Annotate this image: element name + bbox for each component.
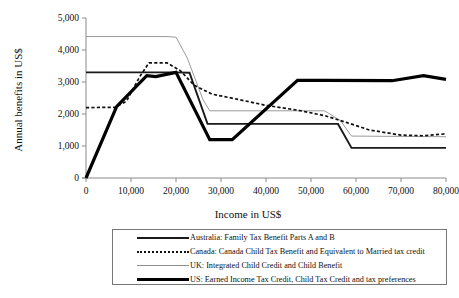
y-tick-label: 4,000: [58, 45, 80, 55]
x-tick-label: 0: [84, 186, 89, 196]
x-tick-label: 50,000: [298, 186, 324, 196]
x-tick-label: 80,000: [433, 186, 459, 196]
legend-swatch-canada: [113, 245, 190, 258]
line-chart: 01,0002,0003,0004,0005,000 010,00020,000…: [0, 0, 459, 228]
legend-swatch-us: [113, 273, 190, 286]
legend-item-australia[interactable]: Australia: Family Tax Benefit Parts A an…: [113, 231, 446, 244]
legend-swatch-australia: [113, 231, 190, 244]
y-axis-ticks: 01,0002,0003,0004,0005,000: [58, 13, 86, 183]
x-tick-label: 20,000: [163, 186, 189, 196]
x-axis-title: Income in US$: [215, 208, 282, 220]
legend-label-australia: Australia: Family Tax Benefit Parts A an…: [190, 233, 335, 242]
legend-item-uk[interactable]: UK: Integrated Child Credit and Child Be…: [113, 259, 446, 272]
legend-line-icon: [137, 278, 189, 281]
y-axis-title: Annual benefits in US$: [12, 48, 24, 152]
x-axis-title-wrap: Income in US$: [0, 200, 459, 226]
legend-line-icon: [137, 265, 189, 266]
legend-line-icon: [137, 251, 189, 253]
chart-legend: Australia: Family Tax Benefit Parts A an…: [112, 229, 447, 285]
series-line-us: [86, 72, 446, 178]
y-tick-label: 3,000: [58, 77, 80, 87]
legend-swatch-uk: [113, 259, 190, 272]
y-tick-label: 0: [74, 173, 79, 183]
chart-figure: 01,0002,0003,0004,0005,000 010,00020,000…: [0, 0, 459, 298]
legend-label-uk: UK: Integrated Child Credit and Child Be…: [190, 261, 342, 270]
series-line-uk: [86, 37, 446, 137]
legend-label-canada: Canada: Canada Child Tax Benefit and Equ…: [190, 247, 425, 256]
y-tick-label: 1,000: [58, 141, 80, 151]
x-tick-label: 40,000: [253, 186, 279, 196]
y-tick-label: 5,000: [58, 13, 80, 23]
x-tick-label: 70,000: [388, 186, 414, 196]
legend-label-us: US: Earned Income Tax Credit, Child Tax …: [190, 275, 416, 284]
y-tick-label: 2,000: [58, 109, 80, 119]
legend-item-us[interactable]: US: Earned Income Tax Credit, Child Tax …: [113, 273, 446, 286]
x-axis-ticks: 010,00020,00030,00040,00050,00060,00070,…: [84, 178, 459, 196]
x-tick-label: 60,000: [343, 186, 369, 196]
legend-item-canada[interactable]: Canada: Canada Child Tax Benefit and Equ…: [113, 245, 446, 258]
series-layer: [86, 37, 446, 178]
x-tick-label: 10,000: [118, 186, 144, 196]
x-tick-label: 30,000: [208, 186, 234, 196]
legend-line-icon: [137, 237, 189, 239]
